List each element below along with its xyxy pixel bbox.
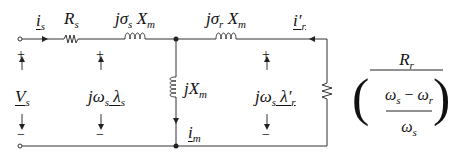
magnetizing-reactance-label: jXm <box>184 80 207 100</box>
magnetizing-inductor <box>170 77 176 97</box>
slip-denominator: ωs <box>378 118 440 138</box>
rotor-current-label: i′r <box>293 12 306 32</box>
rotor-emf-label: jωs λ′r <box>255 88 296 108</box>
rotor-resistor <box>322 83 332 99</box>
slip-numerator: ωs − ωr <box>378 86 440 106</box>
stator-voltage-label: Vs <box>15 88 30 108</box>
stator-current-label: is <box>36 12 45 32</box>
stator-resistance-label: Rs <box>64 10 79 30</box>
emf-r-plus: + <box>262 48 270 62</box>
stator-leakage-inductor <box>125 33 145 39</box>
stator-emf-label: jωs λs <box>88 88 125 108</box>
emf-s-minus: − <box>96 128 104 142</box>
stator-resistor <box>64 35 78 43</box>
magnetizing-current-label: im <box>188 124 201 144</box>
emf-s-plus: + <box>96 48 104 62</box>
rotor-leakage-label: jσr Xm <box>206 10 246 30</box>
vs-plus: + <box>17 48 25 62</box>
stator-leakage-label: jσs Xm <box>115 10 155 30</box>
emf-r-minus: − <box>262 128 270 142</box>
load-numerator: Rr <box>370 50 443 71</box>
rotor-leakage-inductor <box>216 33 236 39</box>
left-paren: ( <box>352 72 369 124</box>
vs-minus: − <box>17 128 25 142</box>
